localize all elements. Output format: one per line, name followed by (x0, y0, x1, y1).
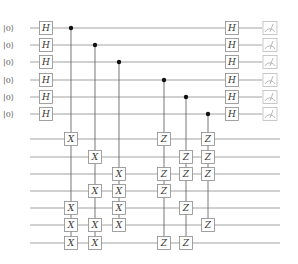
cz-target-gate: Z (180, 202, 193, 215)
hadamard-gate: H (226, 39, 239, 52)
cz-target-gate: Z (202, 168, 215, 181)
svg-text:X: X (91, 186, 99, 196)
initial-state-label: |0⟩ (3, 24, 14, 33)
svg-text:X: X (91, 152, 99, 162)
svg-text:Z: Z (160, 169, 168, 179)
svg-text:H: H (41, 109, 50, 119)
svg-text:H: H (227, 109, 236, 119)
quantum-circuit: |0⟩|0⟩|0⟩|0⟩|0⟩|0⟩HHHHHHHHHHHHXXXXXXXXXX… (0, 0, 298, 264)
control-dot-icon (69, 26, 73, 30)
svg-text:Z: Z (160, 186, 168, 196)
hadamard-gate: H (226, 74, 239, 87)
cnot-target-gate: X (113, 219, 126, 232)
initial-state-label: |0⟩ (3, 58, 14, 67)
svg-text:X: X (67, 238, 75, 248)
meter-icon (263, 91, 277, 104)
svg-text:X: X (67, 203, 75, 213)
svg-text:X: X (91, 220, 99, 230)
cz-target-gate: Z (158, 168, 171, 181)
cz-target-gate: Z (158, 237, 171, 250)
hadamard-gate: H (40, 74, 53, 87)
initial-state-label: |0⟩ (3, 76, 14, 85)
svg-text:Z: Z (182, 238, 190, 248)
svg-text:X: X (91, 238, 99, 248)
control-dot-icon (162, 78, 166, 82)
cnot-target-gate: X (65, 237, 78, 250)
hadamard-gate: H (226, 56, 239, 69)
meter-icon (263, 56, 277, 69)
svg-text:H: H (227, 57, 236, 67)
meter-icon (263, 22, 277, 35)
cz-target-gate: Z (202, 219, 215, 232)
cnot-target-gate: X (65, 219, 78, 232)
control-dot-icon (117, 60, 121, 64)
initial-state-label: |0⟩ (3, 110, 14, 119)
svg-text:X: X (115, 220, 123, 230)
control-dot-icon (93, 43, 97, 47)
hadamard-gate: H (226, 108, 239, 121)
svg-text:Z: Z (160, 238, 168, 248)
svg-text:Z: Z (204, 152, 212, 162)
svg-text:H: H (41, 40, 50, 50)
svg-text:H: H (41, 57, 50, 67)
cz-target-gate: Z (202, 133, 215, 146)
hadamard-gate: H (226, 22, 239, 35)
hadamard-gate: H (40, 22, 53, 35)
cnot-target-gate: X (113, 185, 126, 198)
cnot-target-gate: X (65, 202, 78, 215)
svg-text:X: X (67, 134, 75, 144)
svg-text:Z: Z (204, 220, 212, 230)
svg-text:H: H (41, 23, 50, 33)
svg-text:H: H (227, 75, 236, 85)
control-dot-icon (184, 95, 188, 99)
svg-text:X: X (115, 186, 123, 196)
cz-target-gate: Z (180, 237, 193, 250)
meter-icon (263, 108, 277, 121)
svg-text:Z: Z (160, 134, 168, 144)
hadamard-gate: H (226, 91, 239, 104)
cnot-target-gate: X (89, 237, 102, 250)
cz-target-gate: Z (180, 168, 193, 181)
svg-text:X: X (115, 169, 123, 179)
cnot-target-gate: X (65, 133, 78, 146)
svg-text:Z: Z (204, 169, 212, 179)
svg-text:X: X (67, 220, 75, 230)
cz-target-gate: Z (180, 151, 193, 164)
cnot-target-gate: X (89, 219, 102, 232)
svg-text:Z: Z (182, 152, 190, 162)
svg-text:H: H (227, 40, 236, 50)
cnot-target-gate: X (89, 151, 102, 164)
cz-target-gate: Z (158, 133, 171, 146)
svg-text:H: H (41, 75, 50, 85)
svg-text:Z: Z (182, 169, 190, 179)
initial-state-label: |0⟩ (3, 93, 14, 102)
cz-target-gate: Z (202, 151, 215, 164)
gates-layer: |0⟩|0⟩|0⟩|0⟩|0⟩|0⟩HHHHHHHHHHHHXXXXXXXXXX… (3, 22, 277, 250)
hadamard-gate: H (40, 108, 53, 121)
meter-icon (263, 74, 277, 87)
svg-text:H: H (227, 92, 236, 102)
hadamard-gate: H (40, 91, 53, 104)
svg-text:H: H (41, 92, 50, 102)
cnot-target-gate: X (113, 168, 126, 181)
cnot-target-gate: X (89, 185, 102, 198)
hadamard-gate: H (40, 39, 53, 52)
cnot-target-gate: X (113, 202, 126, 215)
cz-target-gate: Z (158, 185, 171, 198)
svg-text:H: H (227, 23, 236, 33)
svg-text:Z: Z (204, 134, 212, 144)
hadamard-gate: H (40, 56, 53, 69)
initial-state-label: |0⟩ (3, 41, 14, 50)
meter-icon (263, 39, 277, 52)
control-dot-icon (206, 112, 210, 116)
svg-text:X: X (115, 203, 123, 213)
svg-text:Z: Z (182, 203, 190, 213)
